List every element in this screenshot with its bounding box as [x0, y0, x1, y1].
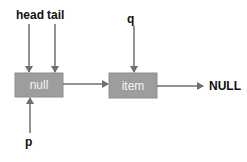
node-null-text: null: [30, 78, 49, 92]
node-null: null: [15, 73, 63, 97]
tail-label: tail: [47, 8, 64, 22]
q-label: q: [127, 12, 134, 26]
node-item: item: [109, 73, 157, 98]
node-item-text: item: [122, 79, 145, 93]
head-label: head: [16, 8, 44, 22]
null-terminal-label: NULL: [209, 79, 241, 93]
linked-list-diagram: head tail q p null item NULL: [0, 0, 247, 162]
p-label: p: [25, 135, 32, 149]
